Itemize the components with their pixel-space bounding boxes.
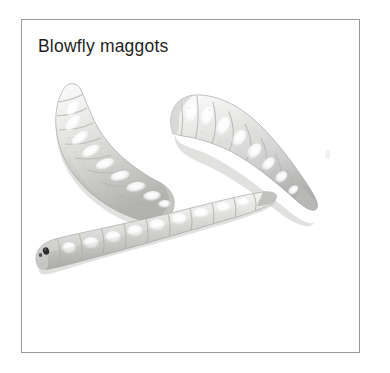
paper-speck	[325, 150, 330, 159]
figure-caption: Blowfly maggots	[38, 37, 168, 56]
figure-root: Blowfly maggots	[0, 0, 390, 373]
figure-border-box: Blowfly maggots	[21, 19, 360, 353]
maggot-illustration	[23, 68, 360, 353]
maggot-photo	[23, 68, 360, 353]
